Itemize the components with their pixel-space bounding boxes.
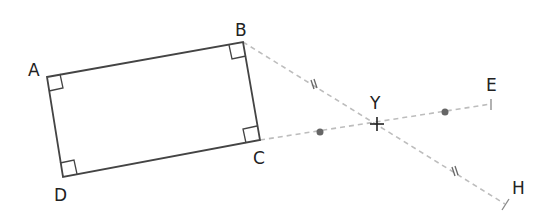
midpoint-dot-YE bbox=[442, 109, 449, 116]
label-D: D bbox=[54, 185, 67, 205]
label-E: E bbox=[486, 75, 497, 95]
label-C: C bbox=[253, 148, 265, 168]
label-H: H bbox=[512, 178, 525, 198]
end-tick-H bbox=[502, 199, 509, 210]
right-angle-marks bbox=[49, 45, 257, 174]
label-A: A bbox=[28, 60, 40, 80]
geometry-diagram: A B C D Y E H bbox=[0, 0, 558, 224]
center-point-Y-icon bbox=[370, 117, 384, 131]
label-Y: Y bbox=[369, 93, 381, 113]
segment-B-H bbox=[243, 42, 505, 204]
midpoint-dot-CY bbox=[317, 129, 324, 136]
double-tick-mark-YH bbox=[452, 166, 458, 176]
rectangle-ABCD bbox=[47, 42, 260, 177]
double-tick-mark-BY bbox=[311, 79, 317, 89]
label-B: B bbox=[235, 20, 247, 40]
